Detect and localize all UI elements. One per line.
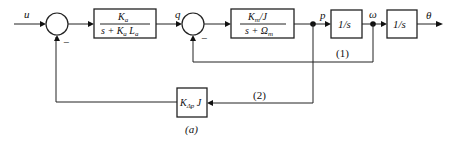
arrow-icon <box>225 21 231 27</box>
signal-u-label: u <box>24 8 30 20</box>
arrow-icon <box>88 21 94 27</box>
signal-omega-label: ω <box>369 8 377 20</box>
signal-p-label: p <box>319 9 326 21</box>
arrow-icon <box>190 35 196 41</box>
loop-1-label: (1) <box>336 47 349 60</box>
arrow-icon <box>54 35 60 41</box>
block-diagram: u − Ka s + Ka La q − Km/J s + Ωm p 1/s ω… <box>0 0 463 144</box>
feedback-path-to-sum1 <box>56 37 177 102</box>
minus-sign-2: − <box>201 32 207 44</box>
summing-junction-1 <box>46 13 68 35</box>
loop-2-label: (2) <box>253 89 266 102</box>
figure-caption: (a) <box>185 123 198 136</box>
signal-q-label: q <box>175 8 181 20</box>
arrow-icon <box>176 21 182 27</box>
block4-label: 1/s <box>393 18 406 30</box>
minus-sign-1: − <box>63 36 69 48</box>
arrow-icon <box>436 21 443 27</box>
arrow-icon <box>40 21 46 27</box>
signal-theta-label: θ <box>426 9 432 21</box>
arrow-icon <box>325 21 331 27</box>
arrow-icon <box>381 21 387 27</box>
block3-label: 1/s <box>338 18 351 30</box>
arrow-icon <box>207 100 213 106</box>
